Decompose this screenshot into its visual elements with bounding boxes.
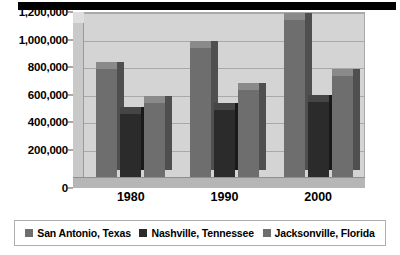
bar-top-face bbox=[120, 107, 141, 114]
bar-column bbox=[120, 114, 141, 177]
legend-swatch-icon bbox=[139, 229, 147, 237]
bar-top-face bbox=[332, 69, 353, 76]
legend-label: Jacksonville, Florida bbox=[275, 227, 375, 239]
bar-front-face bbox=[190, 48, 211, 177]
bar-column bbox=[284, 20, 305, 177]
bar-column bbox=[190, 48, 211, 177]
bar-column bbox=[308, 102, 329, 177]
legend-item[interactable]: San Antonio, Texas bbox=[25, 227, 131, 239]
bar-side-face bbox=[165, 96, 172, 170]
y-axis-tick-label: 1,200,000 bbox=[19, 6, 68, 18]
bar-top-face bbox=[96, 62, 117, 69]
legend-label: San Antonio, Texas bbox=[37, 227, 131, 239]
x-axis-labels: 198019902000 bbox=[73, 190, 365, 210]
bar-front-face bbox=[238, 90, 259, 177]
y-axis-tick-label: 600,000 bbox=[28, 89, 68, 101]
bar-column bbox=[238, 90, 259, 177]
bar-front-face bbox=[332, 76, 353, 177]
bar-top-face bbox=[238, 83, 259, 90]
bar-front-face bbox=[144, 103, 165, 177]
header-accent-bar bbox=[18, 2, 396, 10]
x-axis-tick-label: 2000 bbox=[304, 190, 332, 204]
bar-front-face bbox=[284, 20, 305, 177]
bar-side-face bbox=[353, 69, 360, 170]
bar-column bbox=[96, 69, 117, 177]
x-axis-tick-label: 1990 bbox=[211, 190, 239, 204]
bar-top-face bbox=[214, 103, 235, 110]
x-axis-tick-label: 1980 bbox=[117, 190, 145, 204]
y-axis-labels: 0200,000400,000600,000800,0001,000,0001,… bbox=[0, 12, 73, 188]
bars-layer bbox=[73, 12, 365, 188]
bar-column bbox=[214, 110, 235, 177]
bar-top-face bbox=[284, 13, 305, 20]
y-axis-tick-label: 800,000 bbox=[28, 61, 68, 73]
bar-front-face bbox=[96, 69, 117, 177]
legend-swatch-icon bbox=[263, 229, 271, 237]
chart-page: 0200,000400,000600,000800,0001,000,0001,… bbox=[0, 0, 400, 255]
bar-front-face bbox=[214, 110, 235, 177]
bar-chart: 0200,000400,000600,000800,0001,000,0001,… bbox=[0, 12, 400, 212]
legend-label: Nashville, Tennessee bbox=[151, 227, 253, 239]
bar-top-face bbox=[144, 96, 165, 103]
bar-front-face bbox=[120, 114, 141, 177]
bar-top-face bbox=[190, 41, 211, 48]
bar-column bbox=[144, 103, 165, 177]
legend-swatch-icon bbox=[25, 229, 33, 237]
legend-item[interactable]: Nashville, Tennessee bbox=[139, 227, 253, 239]
bar-top-face bbox=[308, 95, 329, 102]
bar-side-face bbox=[259, 83, 266, 170]
y-axis-tick-label: 200,000 bbox=[28, 144, 68, 156]
y-axis-tick-label: 400,000 bbox=[28, 116, 68, 128]
legend-item[interactable]: Jacksonville, Florida bbox=[263, 227, 375, 239]
chart-legend: San Antonio, TexasNashville, TennesseeJa… bbox=[14, 220, 386, 246]
bar-front-face bbox=[308, 102, 329, 177]
bar-column bbox=[332, 76, 353, 177]
y-axis-tick-label: 1,000,000 bbox=[19, 34, 68, 46]
